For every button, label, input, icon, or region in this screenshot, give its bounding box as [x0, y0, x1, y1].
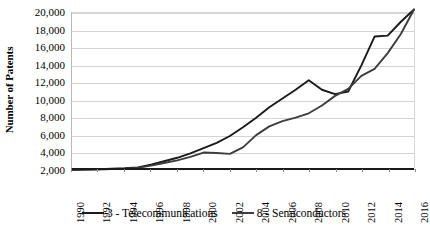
legend-entry[interactable]: 3 - Telecommunications [82, 207, 218, 219]
y-tick-label: 20,000 [35, 6, 65, 18]
x-tick-mark [230, 169, 231, 172]
x-tick-mark [389, 169, 390, 172]
x-tick-mark [362, 169, 363, 172]
y-tick-label: 12,000 [35, 76, 65, 88]
y-tick-label: 8,000 [40, 111, 65, 123]
x-tick-mark [150, 169, 151, 172]
plot-area [71, 12, 415, 170]
legend-line-icon [82, 212, 104, 214]
y-tick-label: 2,000 [40, 164, 65, 176]
legend-line-icon [232, 212, 254, 214]
legend-label: 3 - Telecommunications [107, 207, 218, 219]
x-tick-mark [309, 169, 310, 172]
x-axis-tick-labels: 1990199219941996199820002002200420062008… [71, 172, 415, 206]
legend-label: 8 - Semiconductors [257, 207, 346, 219]
y-axis-title-label: Number of Patents [3, 47, 15, 134]
series-line [72, 10, 414, 170]
y-tick-label: 18,000 [35, 24, 65, 36]
x-tick-mark [415, 169, 416, 172]
x-tick-mark [256, 169, 257, 172]
y-tick-label: 4,000 [40, 146, 65, 158]
x-tick-mark [177, 169, 178, 172]
x-tick-mark [124, 169, 125, 172]
y-tick-label: 10,000 [35, 94, 65, 106]
y-tick-label: 6,000 [40, 129, 65, 141]
x-tick-mark [71, 169, 72, 172]
x-tick-mark [203, 169, 204, 172]
y-tick-label: 16,000 [35, 41, 65, 53]
legend-entry[interactable]: 8 - Semiconductors [232, 207, 346, 219]
series-lines [72, 13, 414, 170]
chart-legend: 3 - Telecommunications8 - Semiconductors [0, 207, 428, 219]
y-axis-tick-labels: 2,0004,0006,0008,00010,00012,00014,00016… [16, 0, 68, 180]
series-line [72, 10, 414, 170]
y-tick-label: 14,000 [35, 59, 65, 71]
x-tick-mark [283, 169, 284, 172]
x-tick-mark [336, 169, 337, 172]
x-tick-mark [97, 169, 98, 172]
